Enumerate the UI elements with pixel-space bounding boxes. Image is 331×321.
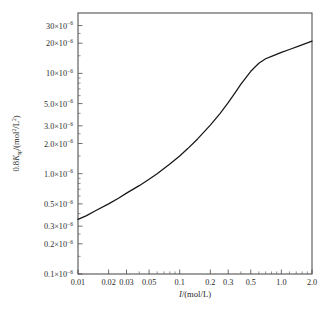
x-tick-label-2: 0.03 [119, 278, 133, 287]
y-tick-label-10: 0.1×10−6 [44, 269, 73, 279]
x-tick-label-3: 0.05 [142, 278, 156, 287]
y-tick-label-4: 3.0×10−6 [44, 121, 73, 131]
x-tick-label-4: 0.1 [175, 278, 185, 287]
x-tick-label-1: 0.02 [101, 278, 115, 287]
y-tick-label-2: 10×10−6 [46, 68, 73, 78]
y-tick-label-3: 5.0×10−6 [44, 98, 73, 108]
figure-container: 0.010.020.030.050.10.20.30.51.02.030×10−… [0, 0, 331, 321]
x-tick-label-8: 1.0 [276, 278, 286, 287]
plot-frame [78, 13, 312, 274]
y-axis-title: 0.8Ksp/(mol2/L2) [11, 115, 22, 171]
figure-caption [26, 309, 326, 321]
y-tick-label-5: 2.0×10−6 [44, 138, 73, 148]
y-tick-label-8: 0.3×10−6 [44, 221, 73, 231]
data-curve [78, 41, 312, 219]
y-tick-label-7: 0.5×10−6 [44, 199, 73, 209]
x-axis-title: I/(mol/L) [178, 289, 211, 299]
x-tick-label-5: 0.2 [205, 278, 215, 287]
y-tick-label-9: 0.2×10−6 [44, 239, 73, 249]
x-tick-label-0: 0.01 [71, 278, 85, 287]
x-tick-label-7: 0.5 [246, 278, 256, 287]
y-tick-label-0: 30×10−6 [46, 20, 73, 30]
x-tick-label-6: 0.3 [223, 278, 233, 287]
chart-plot: 0.010.020.030.050.10.20.30.51.02.030×10−… [0, 0, 331, 321]
y-tick-label-1: 20×10−6 [46, 38, 73, 48]
x-tick-label-9: 2.0 [307, 278, 317, 287]
y-tick-label-6: 1.0×10−6 [44, 168, 73, 178]
